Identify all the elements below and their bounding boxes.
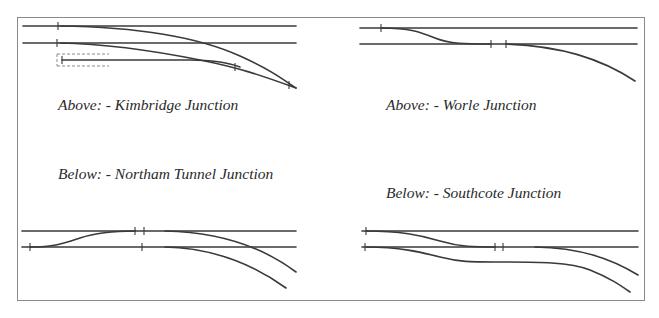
northam-crossover-curve [30, 231, 135, 247]
worle-caption: Above: - Worle Junction [385, 96, 537, 113]
southcote-crossover-curve [366, 231, 495, 247]
southcote-junction-diagram: Below: - Southcote Junction [362, 184, 638, 292]
kimbridge-junction-diagram: Above: - Kimbridge Junction [23, 22, 296, 113]
northam-caption: Below: - Northam Tunnel Junction [58, 165, 274, 182]
southcote-caption: Below: - Southcote Junction [386, 184, 561, 201]
worle-branch-curve [506, 44, 635, 81]
worle-junction-diagram: Above: - Worle Junction [360, 24, 637, 113]
southcote-branch-curve [535, 247, 638, 275]
northam-tunnel-junction-diagram: Below: - Northam Tunnel Junction [22, 165, 296, 288]
northam-branch-curve-from-down [165, 247, 286, 288]
worle-crossover-curve [381, 28, 491, 44]
northam-branch-curve-from-up [165, 231, 296, 272]
kimbridge-branch-curve-from-up [60, 26, 296, 88]
kimbridge-caption: Above: - Kimbridge Junction [57, 96, 239, 113]
junction-diagrams-canvas: Above: - Kimbridge Junction Above: - Wor… [0, 0, 659, 318]
